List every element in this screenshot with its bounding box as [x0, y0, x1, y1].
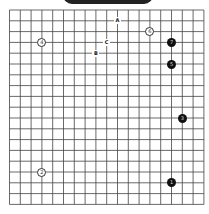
move-number: 6 — [148, 29, 151, 34]
candidate-mark-b[interactable]: B — [92, 50, 99, 57]
black-stone: 5 — [167, 60, 176, 69]
go-board[interactable] — [0, 0, 209, 214]
move-number: 2 — [40, 170, 43, 175]
move-number: 5 — [170, 62, 173, 67]
black-stone: 3 — [178, 114, 187, 123]
move-number: 7 — [170, 40, 173, 45]
move-number: 4 — [40, 40, 43, 45]
black-stone: 7 — [167, 38, 176, 47]
move-number: 1 — [170, 180, 173, 185]
white-stone: 2 — [37, 168, 46, 177]
candidate-mark-c[interactable]: C — [103, 39, 110, 46]
move-number: 3 — [181, 116, 184, 121]
candidate-mark-a[interactable]: A — [114, 17, 121, 24]
